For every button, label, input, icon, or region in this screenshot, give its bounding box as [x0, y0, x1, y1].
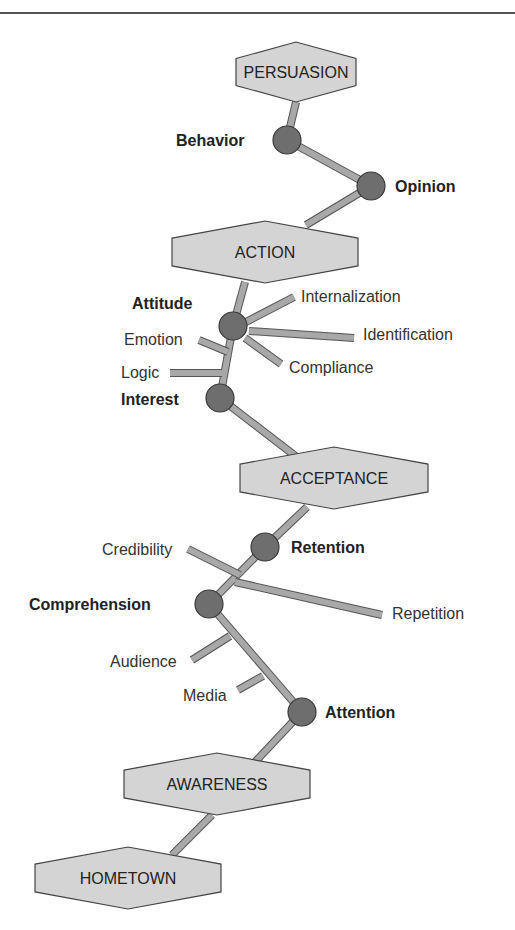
factor-label: Repetition	[392, 605, 464, 622]
step-nodes: BehaviorOpinionAttitudeInterestRetention…	[29, 126, 455, 726]
stage-persuasion: PERSUASION	[236, 42, 356, 102]
node-circle-icon	[195, 590, 223, 618]
factor-emotion: Emotion	[124, 331, 228, 352]
node-circle-icon	[251, 533, 279, 561]
stage-label: PERSUASION	[244, 64, 349, 81]
factor-label: Credibility	[102, 541, 172, 558]
factor-label: Compliance	[289, 359, 374, 376]
node-label: Attention	[325, 704, 395, 721]
stage-awareness: AWARENESS	[124, 753, 310, 815]
factor-internalization: Internalization	[244, 288, 401, 323]
factor-connector	[249, 331, 354, 338]
factor-connector	[199, 340, 228, 352]
stage-label: ACTION	[235, 244, 295, 261]
node-interest: Interest	[121, 384, 234, 412]
stage-label: HOMETOWN	[80, 870, 177, 887]
factor-label: Emotion	[124, 331, 183, 348]
node-circle-icon	[357, 172, 385, 200]
node-circle-icon	[273, 126, 301, 154]
factor-connector	[238, 676, 263, 690]
stage-action: ACTION	[172, 221, 358, 283]
node-retention: Retention	[251, 533, 365, 561]
connector-link	[172, 815, 212, 855]
stage-label: AWARENESS	[166, 776, 267, 793]
node-label: Retention	[291, 539, 365, 556]
node-label: Behavior	[176, 132, 244, 149]
node-comprehension: Comprehension	[29, 590, 223, 618]
node-label: Attitude	[132, 295, 193, 312]
factor-connector	[235, 582, 382, 615]
stage-label: ACCEPTANCE	[280, 470, 388, 487]
factor-label: Identification	[363, 326, 453, 343]
node-label: Comprehension	[29, 596, 151, 613]
node-label: Interest	[121, 391, 179, 408]
persuasion-ladder-diagram: InternalizationIdentificationComplianceE…	[0, 0, 515, 930]
factor-audience: Audience	[110, 636, 230, 670]
factor-connector	[244, 297, 294, 323]
factor-media: Media	[183, 676, 263, 704]
node-opinion: Opinion	[357, 172, 455, 200]
factor-label: Internalization	[301, 288, 401, 305]
factor-compliance: Compliance	[245, 338, 374, 376]
stage-hometown: HOMETOWN	[35, 847, 221, 909]
node-circle-icon	[219, 312, 247, 340]
node-label: Opinion	[395, 178, 455, 195]
factor-repetition: Repetition	[235, 582, 464, 622]
stage-acceptance: ACCEPTANCE	[240, 447, 428, 509]
factor-connector	[245, 338, 281, 364]
node-behavior: Behavior	[176, 126, 301, 154]
factor-identification: Identification	[249, 326, 453, 343]
factor-logic: Logic	[121, 364, 222, 381]
factor-label: Media	[183, 687, 227, 704]
node-circle-icon	[206, 384, 234, 412]
factor-connector	[192, 636, 230, 660]
connector-link	[220, 398, 298, 458]
node-circle-icon	[288, 698, 316, 726]
factor-label: Audience	[110, 653, 177, 670]
factor-credibility: Credibility	[102, 541, 240, 575]
node-attention: Attention	[288, 698, 395, 726]
factor-connector	[188, 549, 240, 575]
factor-label: Logic	[121, 364, 159, 381]
